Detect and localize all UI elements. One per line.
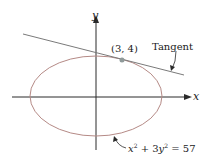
y-axis-label: y — [91, 9, 99, 22]
x-axis-arrow-icon — [184, 94, 192, 100]
equation-label: x2 + 3y2 = 57 — [128, 142, 196, 154]
tangency-point — [120, 58, 125, 63]
ellipse-tangent-diagram: x y (3, 4) Tangent x2 + 3y2 = 57 — [0, 0, 209, 164]
tangent-label: Tangent — [152, 41, 193, 52]
equation-pointer-arrow-icon — [113, 136, 118, 142]
x-axis-label: x — [193, 90, 200, 103]
point-label: (3, 4) — [111, 43, 138, 54]
tangent-pointer-arrow-icon — [170, 65, 175, 71]
